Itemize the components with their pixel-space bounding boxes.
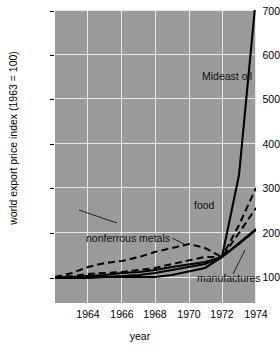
- y-tick-mark-700: [50, 11, 54, 12]
- series-label-mideast-oil: Mideast oil: [202, 70, 252, 82]
- leader-line-manufactures: [233, 250, 245, 274]
- x-tick-label-1974: 1974: [236, 309, 276, 320]
- y-tick-mark-600: [50, 55, 54, 56]
- y-tick-mark-100: [50, 278, 54, 279]
- y-tick-mark-400: [50, 144, 54, 145]
- leader-line-nonferrous: [172, 238, 184, 244]
- series-label-nonferrous-metals: nonferrous metals: [86, 232, 170, 244]
- leader-line-food: [79, 210, 117, 223]
- y-tick-mark-200: [50, 233, 54, 234]
- x-axis-title: year: [0, 330, 280, 342]
- y-tick-mark-300: [50, 188, 54, 189]
- series-label-manufactures: manufactures: [197, 272, 261, 284]
- series-label-food: food: [194, 199, 214, 211]
- plot-area: [55, 10, 256, 303]
- y-axis-title: world export price index (1963 = 100): [7, 33, 19, 243]
- series-svg: [55, 10, 256, 303]
- series-canvas: [55, 10, 256, 303]
- chart-figure: world export price index (1963 = 100) 70…: [0, 0, 280, 357]
- y-tick-mark-500: [50, 99, 54, 100]
